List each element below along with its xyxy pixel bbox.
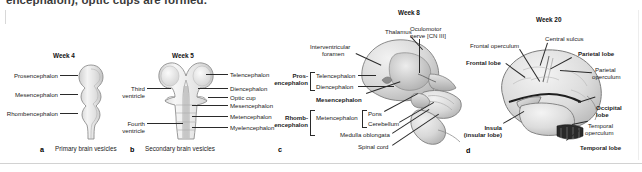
panel-d-title: Week 20 [536,16,561,23]
panel-c-label-pons: Pons [368,110,382,117]
panel-b-letter: b [130,145,134,154]
panel-d-label-temporal-operculum-line2: operculum [585,129,613,136]
leader-c-di [358,86,394,87]
panel-c-label-rhombencephalon-line2: encephalon [268,121,308,128]
panel-d-label-parietal-operculum-line2: operculum [592,73,620,80]
panel-c-label-interventricular-foramen-line2: foramen [322,50,344,57]
leader-b-fourth [147,123,183,124]
leader-b-r3 [208,97,228,98]
panel-b-title: Week 5 [172,52,194,59]
panel-a-label-prosencephalon: Prosencephalon [8,72,58,79]
panel-b-label-metencephalon: Metencephalon [230,113,272,120]
panel-d-label-frontal-operculum: Frontal operculum [470,42,519,49]
panel-d-label-insula-line2: (insular lobe) [452,131,502,138]
panel-c-label-cerebellum: Cerebellum [368,120,399,127]
panel-d-label-central-sulcus: Central sulcus [545,35,584,42]
leader-b-r1 [206,74,228,75]
bottom-rule [0,163,642,164]
leader-b-r4 [192,105,228,106]
panel-b-label-telencephalon: Telencephalon [230,71,269,78]
panel-b-label-third-ventricle-line2: ventricle [110,92,145,99]
leader-c-tel [358,75,376,76]
running-text: encephalon), optic cups are formed. [6,0,266,8]
panel-a-letter: a [40,145,44,154]
panel-c-title: Week 8 [398,9,420,16]
panel-c-label-prosencephalon-line2: encephalon [270,79,308,86]
panel-d-label-frontal-lobe: Frontal lobe [466,59,501,66]
panel-a-label-rhombencephalon: Rhombencephalon [3,110,58,117]
panel-d-label-temporal-lobe: Temporal lobe [580,144,621,151]
panel-c-label-spinal-cord: Spinal cord [358,143,389,150]
leader-b-r6 [192,127,228,128]
panel-b-label-fourth-ventricle-line2: ventricle [108,127,145,134]
leader-b-r2 [198,88,228,89]
panel-d-label-occipital-line2: lobe [596,111,609,118]
panel-b-artwork [155,60,217,142]
leader-a-2 [60,94,78,95]
left-margin-rule [5,10,6,24]
panel-a-caption: Primary brain vesicles [55,145,117,152]
panel-d-letter: d [466,146,470,155]
leader-a-1 [60,75,78,76]
leader-b-third [147,88,171,89]
panel-b-caption: Secondary brain vesicles [145,145,215,152]
panel-b-label-mesencephalon: Mesencephalon [230,102,273,109]
bracket-metencephalon [362,110,367,128]
panel-d-label-parietal-lobe: Parietal lobe [578,50,614,57]
figure-brain-development: encephalon), optic cups are formed. Week… [0,0,642,172]
panel-c-label-mesencephalon: Mesencephalon [316,96,362,103]
panel-b-label-optic-cup: Optic cup [230,94,256,101]
panel-a-label-mesencephalon: Mesencephalon [8,91,58,98]
panel-c-label-oculomotor-line2: nerve [CN III] [410,32,446,39]
right-margin-rule [638,10,639,160]
panel-b-label-diencephalon: Diencephalon [230,85,267,92]
panel-c-label-telencephalon: Telencephalon [316,72,355,79]
panel-c-label-diencephalon: Diencephalon [316,83,353,90]
bracket-rhombencephalon [310,110,315,136]
panel-a-title: Week 4 [53,52,75,59]
leader-b-r5 [192,116,228,117]
panel-c-label-medulla-oblongata: Medulla oblongata [340,131,390,138]
leader-c-oculomotor [419,39,420,73]
panel-c-letter: c [278,145,282,154]
panel-c-label-thalamus: Thalamus [385,28,412,35]
bracket-prosencephalon [310,72,315,91]
panel-c-label-metencephalon: Metencephalon [316,114,358,121]
leader-a-3 [60,113,78,114]
